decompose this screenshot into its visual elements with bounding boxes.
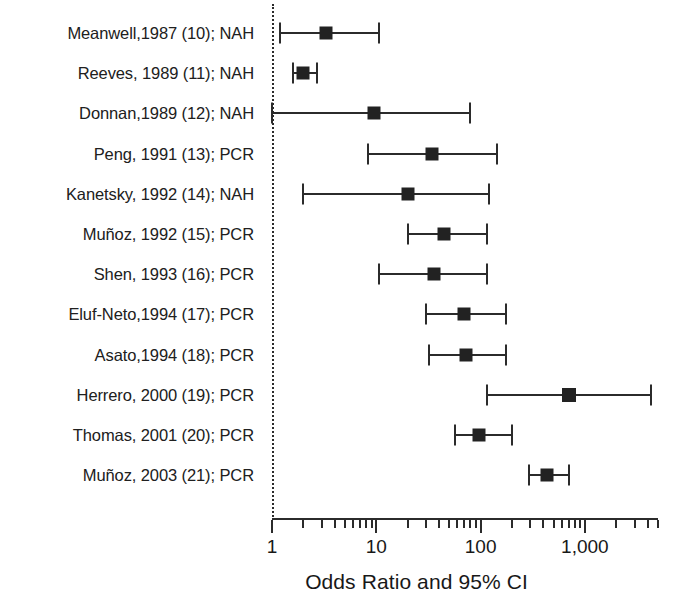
- x-axis-minor-tick: [321, 520, 323, 528]
- odds-ratio-marker: [460, 348, 473, 361]
- ci-upper-cap: [568, 465, 570, 486]
- x-axis-title-text: Odds Ratio and 95% CI: [305, 570, 528, 594]
- ci-upper-cap: [650, 384, 652, 405]
- ci-upper-cap: [469, 103, 471, 124]
- ci-lower-cap: [428, 344, 430, 365]
- forest-row: [0, 179, 683, 209]
- x-axis-minor-tick: [365, 520, 367, 528]
- x-axis-minor-tick: [657, 520, 659, 528]
- x-axis-minor-tick: [553, 520, 555, 528]
- ci-lower-cap: [367, 143, 369, 164]
- odds-ratio-marker: [428, 268, 441, 281]
- odds-ratio-marker: [367, 107, 380, 120]
- odds-ratio-marker: [297, 67, 310, 80]
- x-axis-minor-tick: [561, 520, 563, 528]
- x-axis-minor-tick: [438, 520, 440, 528]
- x-axis-minor-tick: [568, 520, 570, 528]
- ci-lower-cap: [292, 63, 294, 84]
- ci-upper-cap: [378, 23, 380, 44]
- x-axis-tick-label: 10: [366, 536, 387, 558]
- x-axis-minor-tick: [579, 520, 581, 528]
- ci-upper-cap: [496, 143, 498, 164]
- odds-ratio-marker: [472, 429, 485, 442]
- ci-lower-cap: [528, 465, 530, 486]
- forest-row: [0, 58, 683, 88]
- x-axis-major-tick: [584, 520, 586, 533]
- x-axis-minor-tick: [359, 520, 361, 528]
- x-axis-minor-tick: [647, 520, 649, 528]
- x-axis-tick-label: 100: [465, 536, 497, 558]
- x-axis-tick-label: 1: [267, 536, 278, 558]
- forest-row: [0, 420, 683, 450]
- x-axis-major-tick: [271, 520, 273, 533]
- x-axis-minor-tick: [456, 520, 458, 528]
- odds-ratio-marker: [438, 228, 451, 241]
- x-axis-title: Odds Ratio and 95% CI: [0, 570, 683, 594]
- ci-lower-cap: [302, 183, 304, 204]
- ci-lower-cap: [378, 264, 380, 285]
- x-axis-minor-tick: [352, 520, 354, 528]
- x-axis-minor-tick: [407, 520, 409, 528]
- forest-row: [0, 340, 683, 370]
- x-axis-minor-tick: [334, 520, 336, 528]
- forest-plot: Meanwell,1987 (10); NAHReeves, 1989 (11)…: [0, 0, 683, 613]
- x-axis-minor-tick: [615, 520, 617, 528]
- odds-ratio-marker: [457, 308, 470, 321]
- odds-ratio-marker: [401, 187, 414, 200]
- odds-ratio-marker: [562, 388, 576, 402]
- ci-upper-cap: [486, 264, 488, 285]
- forest-row: [0, 139, 683, 169]
- ci-lower-cap: [425, 304, 427, 325]
- plot-area: [0, 0, 683, 505]
- x-axis-minor-tick: [463, 520, 465, 528]
- forest-row: [0, 259, 683, 289]
- ci-lower-cap: [486, 384, 488, 405]
- forest-row: [0, 98, 683, 128]
- confidence-interval-bar: [303, 193, 488, 195]
- x-axis-minor-tick: [302, 520, 304, 528]
- x-axis-major-tick: [375, 520, 377, 533]
- x-axis-minor-tick: [634, 520, 636, 528]
- ci-upper-cap: [316, 63, 318, 84]
- x-axis-minor-tick: [469, 520, 471, 528]
- forest-row: [0, 299, 683, 329]
- x-axis-minor-tick: [344, 520, 346, 528]
- x-axis-minor-tick: [511, 520, 513, 528]
- x-axis: Odds Ratio and 95% CI 1101001,000: [0, 518, 683, 613]
- ci-lower-cap: [407, 224, 409, 245]
- ci-lower-cap: [271, 103, 273, 124]
- ci-upper-cap: [511, 425, 513, 446]
- ci-lower-cap: [279, 23, 281, 44]
- odds-ratio-marker: [540, 469, 553, 482]
- ci-upper-cap: [505, 344, 507, 365]
- x-axis-tick-label: 1,000: [561, 536, 609, 558]
- x-axis-minor-tick: [475, 520, 477, 528]
- x-axis-minor-tick: [529, 520, 531, 528]
- x-axis-minor-tick: [371, 520, 373, 528]
- forest-row: [0, 219, 683, 249]
- forest-row: [0, 18, 683, 48]
- x-axis-major-tick: [480, 520, 482, 533]
- x-axis-minor-tick: [448, 520, 450, 528]
- odds-ratio-marker: [425, 147, 438, 160]
- ci-upper-cap: [505, 304, 507, 325]
- forest-row: [0, 460, 683, 490]
- x-axis-minor-tick: [542, 520, 544, 528]
- ci-upper-cap: [488, 183, 490, 204]
- ci-upper-cap: [486, 224, 488, 245]
- ci-lower-cap: [454, 425, 456, 446]
- forest-row: [0, 380, 683, 410]
- x-axis-minor-tick: [425, 520, 427, 528]
- x-axis-minor-tick: [574, 520, 576, 528]
- odds-ratio-marker: [320, 27, 333, 40]
